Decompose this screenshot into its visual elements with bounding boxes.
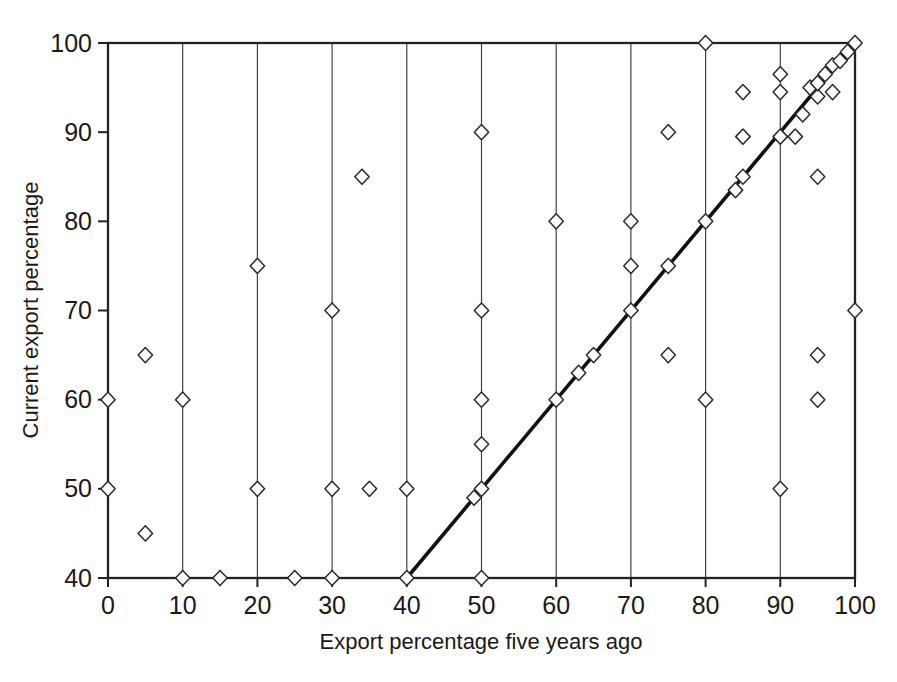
y-tick-label-100: 100 [50, 29, 92, 57]
data-point-marker [848, 303, 862, 318]
data-point-marker [474, 570, 488, 585]
y-tick-label-70: 70 [64, 296, 92, 324]
scatter-plot-figure: 0102030405060708090100405060708090100 Ex… [0, 0, 897, 682]
data-point-marker [325, 570, 339, 585]
data-point-marker [355, 169, 369, 184]
data-point-marker [325, 303, 339, 318]
y-tick-label-60: 60 [64, 385, 92, 413]
axis-tick-labels: 0102030405060708090100405060708090100 [50, 29, 876, 620]
x-tick-label-70: 70 [617, 591, 645, 619]
data-point-marker [736, 84, 750, 99]
x-tick-label-20: 20 [243, 591, 271, 619]
x-axis-title: Export percentage five years ago [320, 629, 643, 654]
y-tick-label-90: 90 [64, 118, 92, 146]
data-point-marker [825, 84, 839, 99]
data-point-marker [474, 392, 488, 407]
data-point-marker [474, 437, 488, 452]
data-point-marker [288, 570, 302, 585]
x-tick-label-40: 40 [393, 591, 421, 619]
data-point-marker [810, 347, 824, 362]
data-point-marker [728, 183, 742, 198]
data-point-marker [773, 84, 787, 99]
data-point-marker [101, 481, 115, 496]
data-point-marker [474, 303, 488, 318]
x-tick-label-50: 50 [468, 591, 496, 619]
data-point-marker [810, 392, 824, 407]
x-tick-label-90: 90 [766, 591, 794, 619]
data-point-marker [362, 481, 376, 496]
data-point-marker [213, 570, 227, 585]
x-tick-label-30: 30 [318, 591, 346, 619]
data-point-marker [138, 347, 152, 362]
x-tick-label-100: 100 [834, 591, 876, 619]
data-point-marker [661, 347, 675, 362]
axis-ticks [98, 43, 855, 587]
data-point-marker [773, 67, 787, 82]
data-point-marker [788, 129, 802, 144]
y-axis-title: Current export percentage [18, 182, 43, 439]
data-point-marker [810, 169, 824, 184]
data-point-marker [624, 258, 638, 273]
x-tick-label-80: 80 [692, 591, 720, 619]
y-tick-label-50: 50 [64, 474, 92, 502]
data-point-marker [474, 125, 488, 140]
x-tick-label-60: 60 [542, 591, 570, 619]
data-point-marker [773, 481, 787, 496]
y-tick-label-40: 40 [64, 564, 92, 592]
data-point-marker [250, 258, 264, 273]
x-tick-label-0: 0 [101, 591, 115, 619]
data-point-marker [736, 129, 750, 144]
data-point-marker [176, 570, 190, 585]
data-point-marker [176, 392, 190, 407]
data-point-marker [138, 526, 152, 541]
data-point-marker [698, 392, 712, 407]
data-point-marker [698, 35, 712, 50]
scatter-chart: 0102030405060708090100405060708090100 Ex… [0, 0, 897, 682]
data-point-marker [661, 125, 675, 140]
data-point-marker [250, 481, 264, 496]
y-tick-label-80: 80 [64, 207, 92, 235]
data-point-marker [325, 481, 339, 496]
x-tick-label-10: 10 [169, 591, 197, 619]
data-point-marker [549, 214, 563, 229]
data-point-marker [101, 392, 115, 407]
data-point-marker [624, 214, 638, 229]
data-point-marker [773, 129, 787, 144]
data-point-marker [400, 481, 414, 496]
